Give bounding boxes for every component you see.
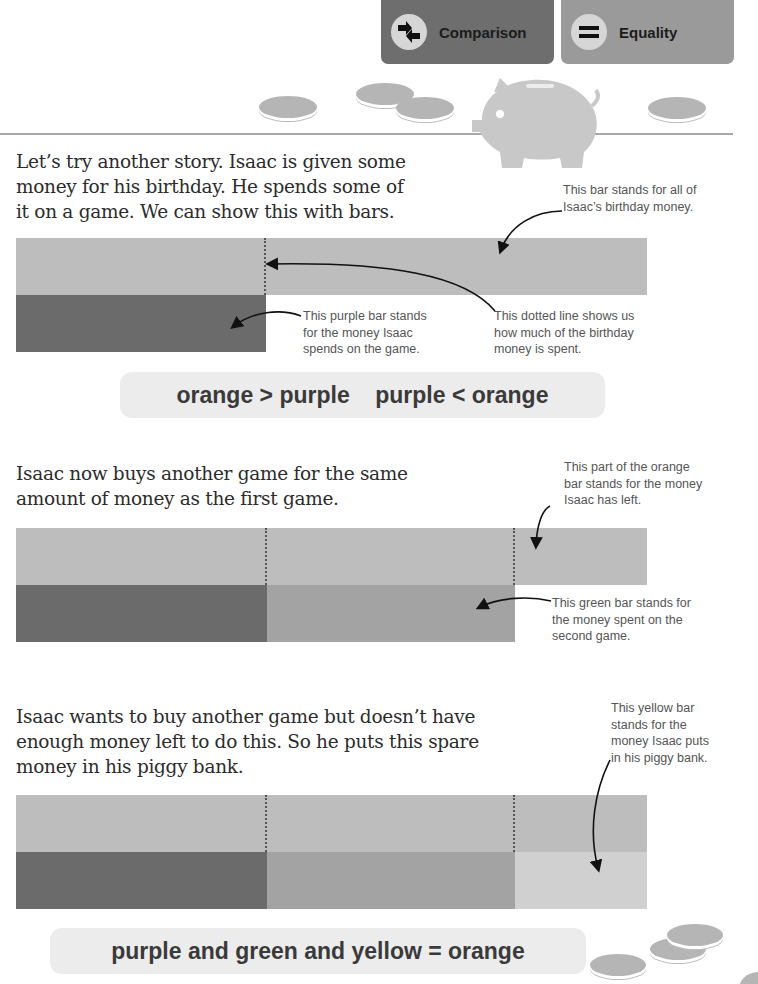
note-money-left: This part of the orange bar stands for t… [564,459,702,509]
coin-icon [667,924,723,946]
orange-bar-total [16,528,647,585]
text-line: it on a game. We can show this with bars… [16,199,406,224]
tab-comparison[interactable]: Comparison [381,0,554,64]
story-paragraph-1: Let’s try another story. Isaac is given … [16,149,406,224]
story-paragraph-2: Isaac now buys another game for the same… [16,461,408,511]
equation-equality: purple and green and yellow = orange [50,928,586,974]
text-line: Isaac now buys another game for the same [16,461,408,486]
dotted-line [513,528,515,585]
purple-bar-game1 [16,585,267,642]
green-bar-game2 [267,852,515,909]
dotted-line [265,528,267,585]
orange-bar-total [16,238,647,295]
header-divider [0,133,733,135]
dotted-line [264,238,266,295]
coin-icon [648,97,706,119]
dotted-line [265,795,267,852]
equation-comparison: orange > purple purple < orange [120,372,605,418]
orange-bar-total [16,795,647,852]
coin-icon [590,954,646,976]
piggy-bank-icon [470,70,610,170]
text-line: amount of money as the first game. [16,486,408,511]
text-line: money in his piggy bank. [16,754,479,779]
equals-icon [571,14,607,50]
text-line: Let’s try another story. Isaac is given … [16,149,406,174]
note-green-bar: This green bar stands for the money spen… [552,595,691,645]
comparison-arrows-icon [391,14,427,50]
dotted-line [513,795,515,852]
tab-comparison-label: Comparison [439,24,527,41]
coin-icon [396,97,454,119]
note-dotted-line: This dotted line shows us how much of th… [494,308,634,358]
note-yellow-bar: This yellow bar stands for the money Isa… [611,700,709,766]
note-purple-bar: This purple bar stands for the money Isa… [303,308,427,358]
purple-bar-game1 [16,852,267,909]
coin-icon [259,96,317,118]
yellow-bar-savings [515,852,647,909]
note-orange-bar: This bar stands for all of Isaac’s birth… [563,182,696,215]
text-line: enough money left to do this. So he puts… [16,729,479,754]
page-number-tab [738,972,758,984]
text-line: Isaac wants to buy another game but does… [16,704,479,729]
tab-equality[interactable]: Equality [561,0,734,64]
green-bar-game2 [267,585,515,642]
story-paragraph-3: Isaac wants to buy another game but does… [16,704,479,779]
purple-bar-game1 [16,295,266,352]
text-line: money for his birthday. He spends some o… [16,174,406,199]
tab-equality-label: Equality [619,24,677,41]
